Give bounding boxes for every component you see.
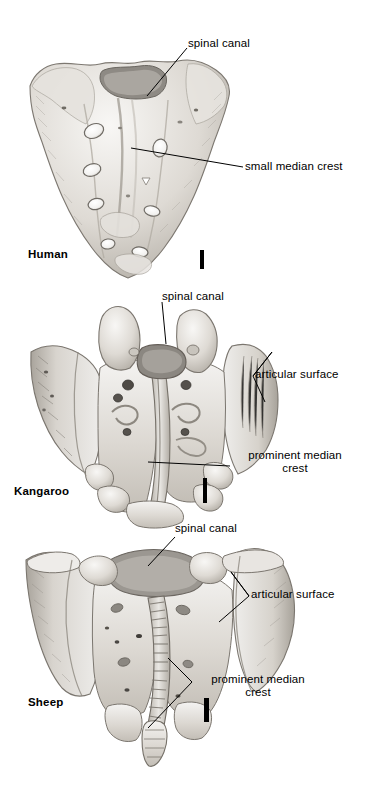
annotation-sheep-prominent-median-crest: prominent median crest: [196, 673, 320, 699]
specimen-label-human: Human: [28, 248, 68, 260]
annotation-kangaroo-articular-surface: articular surface: [255, 368, 339, 381]
annotation-kangaroo-spinal-canal: spinal canal: [162, 290, 224, 303]
sheep-sacrum-drawing: [26, 549, 295, 767]
scale-bar-human: [200, 250, 204, 269]
annotation-sheep-articular-surface: articular surface: [251, 588, 335, 601]
annotation-kangaroo-prominent-median-crest: prominent median crest: [233, 449, 357, 475]
annotation-human-spinal-canal: spinal canal: [188, 37, 250, 50]
specimen-label-kangaroo: Kangaroo: [14, 485, 69, 497]
scale-bar-sheep: [204, 698, 209, 722]
human-sacrum-drawing: [30, 60, 229, 278]
scale-bar-kangaroo: [203, 478, 207, 503]
annotation-sheep-spinal-canal: spinal canal: [175, 522, 237, 535]
specimen-label-sheep: Sheep: [28, 696, 64, 708]
comparative-anatomy-plate: spinal canal small median crest Human sp…: [0, 0, 369, 796]
annotation-human-small-median-crest: small median crest: [245, 160, 343, 173]
